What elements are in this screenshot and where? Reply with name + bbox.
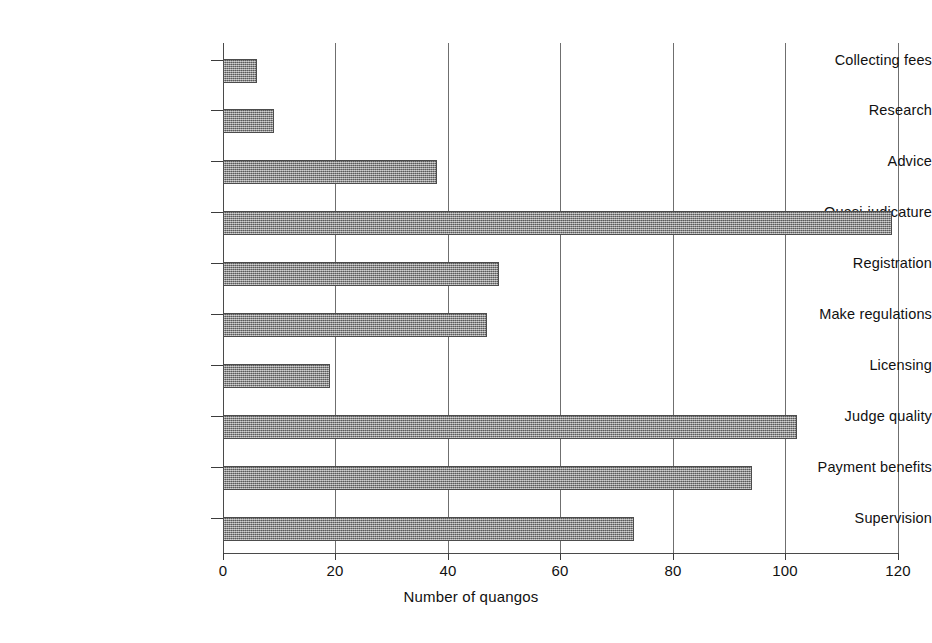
bar-registration — [223, 262, 499, 286]
category-label-advice: Advice — [722, 153, 932, 169]
x-tick-label-0: 0 — [219, 562, 228, 579]
category-label-payment-benefits: Payment benefits — [722, 459, 932, 475]
bar-research — [223, 109, 274, 133]
x-tick-label-60: 60 — [551, 562, 568, 579]
bar-chart: 0 20 40 60 80 100 120 Number of quangos … — [0, 0, 932, 643]
category-label-make-regulations: Make regulations — [722, 306, 932, 322]
bar-supervision — [223, 517, 634, 541]
x-tick-40 — [448, 553, 449, 560]
category-tick-payment-benefits — [211, 467, 223, 468]
category-label-collecting-fees: Collecting fees — [722, 52, 932, 68]
bar-judge-quality — [223, 415, 797, 439]
x-tick-20 — [335, 553, 336, 560]
gridline-100 — [785, 43, 786, 553]
bar-make-regulations — [223, 313, 487, 337]
gridline-120 — [898, 43, 899, 553]
category-tick-make-regulations — [211, 314, 223, 315]
bar-payment-benefits — [223, 466, 752, 490]
category-label-registration: Registration — [722, 255, 932, 271]
x-tick-120 — [898, 553, 899, 560]
bar-licensing — [223, 364, 330, 388]
category-tick-quasi-judicature — [211, 212, 223, 213]
category-label-research: Research — [722, 102, 932, 118]
x-axis-title-text: Number of quangos — [403, 588, 538, 605]
x-axis-title: Number of quangos — [0, 588, 932, 605]
category-label-supervision: Supervision — [722, 510, 932, 526]
category-tick-registration — [211, 263, 223, 264]
category-tick-judge-quality — [211, 416, 223, 417]
category-tick-supervision — [211, 518, 223, 519]
x-tick-label-40: 40 — [439, 562, 456, 579]
x-tick-label-20: 20 — [326, 562, 343, 579]
bar-collecting-fees — [223, 59, 257, 83]
category-tick-licensing — [211, 365, 223, 366]
x-tick-label-100: 100 — [772, 562, 798, 579]
x-tick-100 — [785, 553, 786, 560]
x-tick-label-120: 120 — [885, 562, 911, 579]
x-tick-60 — [560, 553, 561, 560]
bar-quasi-judicature — [223, 211, 892, 235]
category-tick-advice — [211, 161, 223, 162]
category-label-licensing: Licensing — [722, 357, 932, 373]
category-tick-collecting-fees — [211, 60, 223, 61]
x-tick-80 — [673, 553, 674, 560]
x-tick-0 — [223, 553, 224, 560]
bar-advice — [223, 160, 437, 184]
x-tick-label-80: 80 — [664, 562, 681, 579]
category-tick-research — [211, 110, 223, 111]
